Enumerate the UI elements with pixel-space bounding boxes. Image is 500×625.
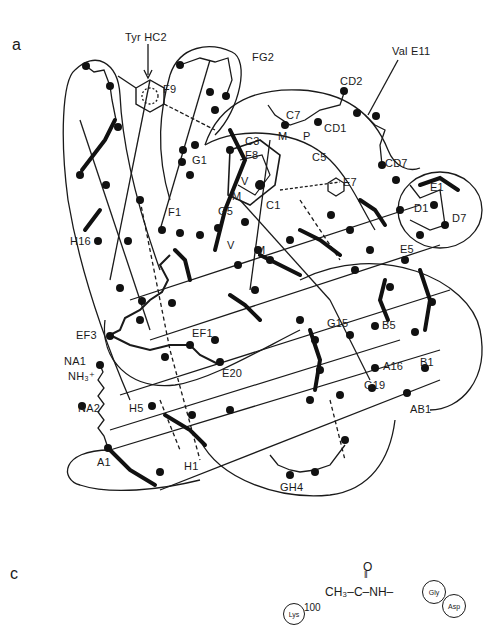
label-f8: F8	[245, 150, 258, 161]
label-v-lower: V	[227, 240, 235, 251]
label-cd1: CD1	[324, 123, 347, 134]
double-bond: ‖	[364, 570, 368, 580]
label-f9: F9	[163, 84, 176, 95]
residue-lys: Lys	[283, 603, 305, 625]
label-b1: B1	[420, 357, 434, 368]
label-val-e11: Val E11	[392, 46, 430, 57]
label-v-upper: V	[241, 176, 249, 187]
label-h1: H1	[184, 461, 198, 472]
label-c3: C3	[245, 136, 259, 147]
label-ab1: AB1	[410, 404, 431, 415]
label-g15: G15	[327, 318, 348, 329]
label-e1: E1	[430, 182, 444, 193]
label-b5: B5	[382, 320, 396, 331]
residue-asp: Asp	[442, 594, 466, 618]
label-g19: G19	[364, 380, 385, 391]
label-c7: C7	[286, 110, 300, 121]
label-h16: H16	[70, 236, 91, 247]
label-na1: NA1	[64, 356, 86, 367]
label-fg2: FG2	[252, 52, 274, 63]
acetyl-chain: CH₃–C–NH–	[325, 585, 393, 599]
label-d7: D7	[452, 213, 466, 224]
label-cd2: CD2	[340, 76, 363, 87]
label-e20: E20	[222, 368, 242, 379]
label-c5: C5	[312, 152, 326, 163]
label-m-top: M	[278, 131, 287, 142]
label-c1: C1	[266, 200, 280, 211]
label-d1: D1	[414, 203, 428, 214]
label-h5: H5	[129, 403, 143, 414]
label-ef1: EF1	[192, 328, 213, 339]
label-f1: F1	[168, 207, 181, 218]
label-tyr-hc2: Tyr HC2	[125, 32, 167, 43]
label-a1: A1	[97, 457, 111, 468]
label-gh4: GH4	[280, 482, 303, 493]
label-ef3: EF3	[76, 330, 97, 341]
label-cd7: CD7	[385, 158, 408, 169]
label-a16: A16	[383, 361, 403, 372]
label-m-lower: M	[256, 245, 265, 256]
residue-number: 100	[304, 602, 321, 613]
label-nh3-plus: NH₃⁺	[68, 371, 95, 382]
label-m-left: M	[232, 191, 241, 202]
label-g5: G5	[218, 206, 233, 217]
label-e7: E7	[343, 177, 357, 188]
label-p: P	[303, 131, 311, 142]
label-g1: G1	[192, 155, 207, 166]
label-e5: E5	[400, 244, 414, 255]
label-na2: NA2	[78, 403, 100, 414]
